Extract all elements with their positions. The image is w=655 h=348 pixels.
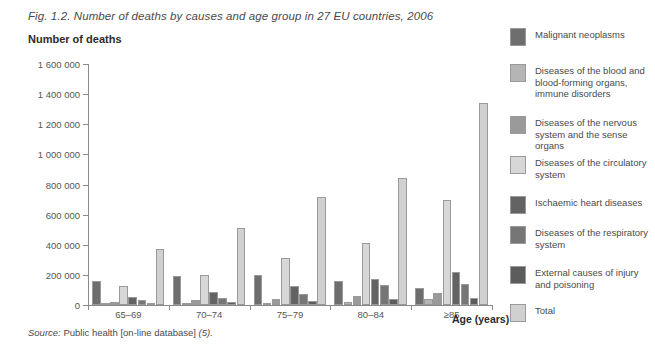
bar <box>398 178 407 305</box>
bar <box>317 197 326 305</box>
legend-swatch-icon <box>510 156 526 174</box>
bar <box>470 298 479 305</box>
x-axis-line <box>88 305 493 306</box>
y-axis-tick-label: 0 <box>75 300 80 311</box>
legend-item[interactable]: Total <box>510 304 555 322</box>
legend-swatch-icon <box>510 226 526 244</box>
bar <box>362 243 371 305</box>
legend-item[interactable]: Diseases of the nervous system and the s… <box>510 116 653 152</box>
legend-item-label: Diseases of the nervous system and the s… <box>535 116 653 152</box>
bar <box>128 297 137 305</box>
bar <box>290 286 299 305</box>
x-axis-category-label: 70–74 <box>196 309 222 320</box>
legend-item[interactable]: Diseases of the blood and blood-forming … <box>510 64 653 100</box>
bar <box>389 299 398 305</box>
legend-item[interactable]: External causes of injury and poisoning <box>510 266 653 290</box>
y-axis-tick-label: 1 200 000 <box>38 119 80 130</box>
bar <box>156 249 165 305</box>
source-prefix: Source: <box>28 327 61 338</box>
bar <box>218 298 227 305</box>
bar <box>227 302 236 305</box>
bar <box>371 279 380 305</box>
bar <box>281 258 290 305</box>
bar <box>443 200 452 305</box>
bar <box>119 286 128 305</box>
legend-item-label: External causes of injury and poisoning <box>535 266 653 290</box>
x-axis-group-separator <box>169 305 170 310</box>
x-axis-category-label: 75–79 <box>277 309 303 320</box>
bar <box>110 302 119 305</box>
bar <box>380 285 389 305</box>
legend-swatch-icon <box>510 116 526 134</box>
bar <box>452 272 461 305</box>
bar <box>424 299 433 305</box>
source-text: Public health [on-line database] <box>63 327 196 338</box>
bar <box>299 294 308 305</box>
y-axis-tick-label: 1 400 000 <box>38 89 80 100</box>
legend-swatch-icon <box>510 266 526 284</box>
figure-title: Fig. 1.2. Number of deaths by causes and… <box>28 10 433 22</box>
bar <box>209 292 218 305</box>
x-axis-group-separator <box>492 305 493 310</box>
legend-item-label: Diseases of the respiratory system <box>535 226 653 250</box>
legend-item[interactable]: Ischaemic heart diseases <box>510 196 642 214</box>
bar <box>191 300 200 305</box>
legend-swatch-icon <box>510 304 526 322</box>
bar <box>263 303 272 305</box>
legend-item-label: Malignant neoplasms <box>535 28 625 41</box>
x-axis-group-separator <box>330 305 331 310</box>
bar <box>433 293 442 305</box>
bar <box>182 303 191 305</box>
legend-item-label: Diseases of the blood and blood-forming … <box>535 64 653 100</box>
x-axis-group-separator <box>411 305 412 310</box>
x-axis-category-label: 65–69 <box>115 309 141 320</box>
bar <box>415 288 424 305</box>
y-axis-tick-label: 200 000 <box>46 269 80 280</box>
y-axis-tick-label: 1 600 000 <box>38 59 80 70</box>
legend-item-label: Total <box>535 304 555 317</box>
bar <box>308 301 317 305</box>
bar <box>272 299 281 305</box>
figure-container: Fig. 1.2. Number of deaths by causes and… <box>0 0 655 348</box>
legend-item[interactable]: Diseases of the respiratory system <box>510 226 653 250</box>
legend-item[interactable]: Malignant neoplasms <box>510 28 625 46</box>
bar <box>353 296 362 305</box>
x-axis-category-label: 80–84 <box>358 309 384 320</box>
x-axis-title: Age (years) <box>452 313 509 325</box>
legend-swatch-icon <box>510 28 526 46</box>
legend-item-label: Diseases of the circulatory system <box>535 156 653 180</box>
bar <box>334 281 343 305</box>
source-reference: (5). <box>199 327 213 338</box>
bar <box>344 302 353 305</box>
legend-swatch-icon <box>510 64 526 82</box>
bar <box>147 303 156 305</box>
bar <box>200 275 209 305</box>
source-note: Source: Public health [on-line database]… <box>28 327 213 338</box>
y-axis-tick-label: 600 000 <box>46 209 80 220</box>
legend-item-label: Ischaemic heart diseases <box>535 196 642 209</box>
y-axis-tick-label: 400 000 <box>46 239 80 250</box>
bar <box>92 281 101 305</box>
y-axis-title: Number of deaths <box>28 33 122 45</box>
plot-area <box>88 64 492 305</box>
bar <box>101 303 110 305</box>
y-axis-tick-label: 800 000 <box>46 179 80 190</box>
y-axis-tick-label: 1 000 000 <box>38 149 80 160</box>
bar <box>254 275 263 305</box>
legend-swatch-icon <box>510 196 526 214</box>
x-axis-group-separator <box>250 305 251 310</box>
bar <box>479 103 488 305</box>
bar <box>138 300 147 305</box>
bar <box>237 228 246 305</box>
bar <box>461 284 470 305</box>
x-axis-group-separator <box>88 305 89 310</box>
legend-item[interactable]: Diseases of the circulatory system <box>510 156 653 180</box>
bar <box>173 276 182 305</box>
